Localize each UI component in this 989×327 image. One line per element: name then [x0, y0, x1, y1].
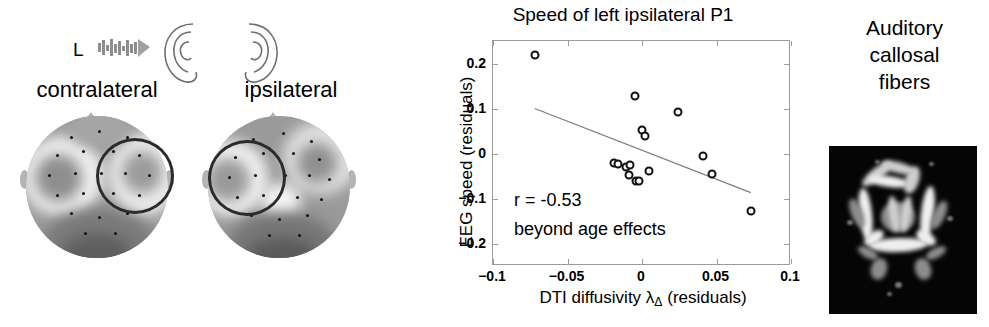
- left-ear-icon: [155, 20, 209, 86]
- figure-panel: L: [0, 0, 989, 327]
- chart-annotations: r = -0.53 beyond age effects: [514, 186, 666, 244]
- x-tick: [493, 259, 494, 264]
- delta-subscript: Δ: [654, 295, 662, 309]
- x-tick: [642, 41, 643, 46]
- topoplot-contralateral: [18, 112, 176, 264]
- data-point: [635, 176, 644, 185]
- dti-caption-line-2: callosal: [820, 41, 989, 68]
- y-tick: [493, 199, 498, 200]
- y-tick: [493, 64, 498, 65]
- y-tick-label: 0.2: [467, 55, 486, 71]
- x-tick: [717, 41, 718, 46]
- y-tick-label: 0: [478, 145, 486, 161]
- data-point: [640, 131, 649, 140]
- x-axis-title: DTI diffusivity λΔ (residuals): [478, 288, 808, 312]
- y-tick: [784, 109, 789, 110]
- stimulus-diagram: L: [55, 14, 345, 86]
- y-tick: [784, 199, 789, 200]
- topoplot-label-contralateral: contralateral: [2, 78, 192, 102]
- covariate-text: beyond age effects: [514, 215, 666, 244]
- x-tick-label: 0.05: [702, 268, 729, 284]
- y-tick-label: −0.1: [458, 190, 486, 206]
- x-tick: [493, 41, 494, 46]
- x-tick-label: −0.1: [478, 268, 506, 284]
- data-point: [673, 108, 682, 117]
- roi-ellipse-left: [208, 140, 286, 216]
- stimulus-side-label: L: [73, 40, 84, 59]
- y-tick-label: −0.2: [458, 235, 486, 251]
- x-axis-title-suffix: (residuals): [663, 288, 747, 307]
- x-tick-label: 0.1: [780, 268, 799, 284]
- topoplot-ipsilateral: [200, 112, 358, 264]
- scatter-chart-panel: Speed of left ipsilateral P1 r = -0.53 b…: [418, 0, 818, 327]
- sound-burst-icon: [97, 36, 157, 60]
- x-tick: [642, 259, 643, 264]
- y-tick: [784, 244, 789, 245]
- x-tick: [791, 41, 792, 46]
- data-point: [746, 207, 755, 216]
- dti-panel: Auditory callosal fibers: [820, 0, 989, 327]
- correlation-text: r = -0.53: [514, 186, 666, 215]
- y-tick-label: 0.1: [467, 100, 486, 116]
- dti-caption-line-1: Auditory: [820, 14, 989, 41]
- x-tick: [791, 259, 792, 264]
- x-tick-label: −0.05: [549, 268, 584, 284]
- roi-ellipse-right: [96, 138, 174, 214]
- data-point: [699, 151, 708, 160]
- x-tick: [568, 41, 569, 46]
- dti-caption: Auditory callosal fibers: [820, 14, 989, 95]
- topoplot-label-ipsilateral: ipsilateral: [196, 78, 386, 102]
- chart-title: Speed of left ipsilateral P1: [448, 4, 798, 26]
- eeg-topography-panel: L: [0, 0, 430, 327]
- data-point: [530, 50, 539, 59]
- y-tick: [493, 154, 498, 155]
- x-tick: [568, 259, 569, 264]
- dti-caption-line-3: fibers: [820, 68, 989, 95]
- y-tick: [493, 244, 498, 245]
- x-tick-label: 0: [637, 268, 645, 284]
- dti-fiber-map: [829, 146, 977, 314]
- y-tick: [784, 154, 789, 155]
- x-tick: [717, 259, 718, 264]
- data-point: [708, 170, 717, 179]
- y-tick: [784, 64, 789, 65]
- data-point: [630, 91, 639, 100]
- y-tick: [493, 109, 498, 110]
- data-point: [645, 166, 654, 175]
- x-axis-title-prefix: DTI diffusivity: [539, 288, 645, 307]
- data-point: [626, 161, 635, 170]
